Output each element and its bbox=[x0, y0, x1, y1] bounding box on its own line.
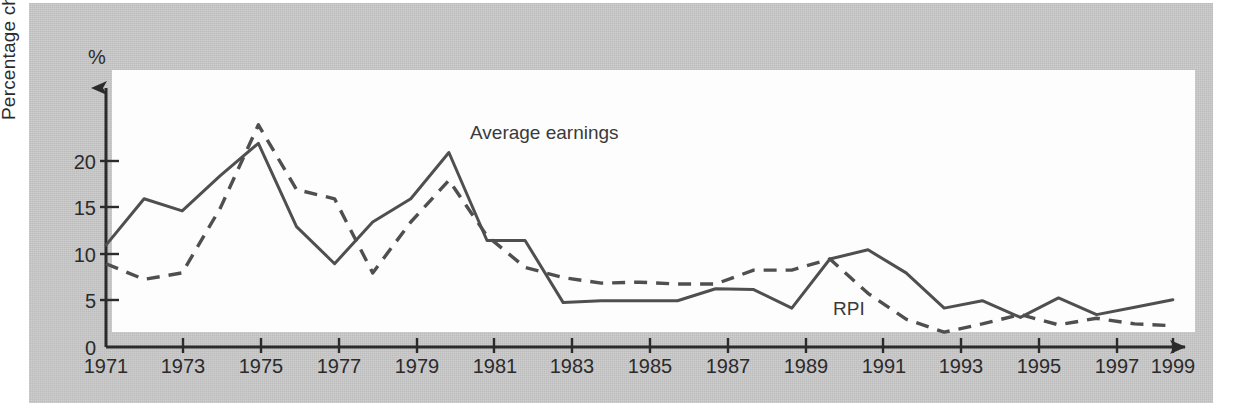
series-line-average-earnings bbox=[106, 143, 1173, 317]
figure-container: Percentage change on previous year % 20 … bbox=[0, 0, 1239, 413]
chart-svg bbox=[0, 0, 1239, 413]
axes-group bbox=[106, 88, 1185, 347]
